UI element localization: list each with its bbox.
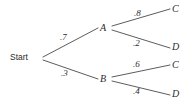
probability-label-a-d: .2 <box>133 39 140 48</box>
probability-label-start-a: .7 <box>60 33 67 42</box>
node-b-d-label: D <box>172 89 179 99</box>
probability-label-b-d: .4 <box>133 87 140 96</box>
node-start-label: Start <box>10 53 28 62</box>
tree-edges-canvas <box>0 0 191 110</box>
edge-a-to-d <box>112 30 170 48</box>
node-b-c-label: C <box>172 60 179 70</box>
edge-b-to-c <box>112 65 170 77</box>
probability-label-start-b: .3 <box>61 69 68 78</box>
probability-label-a-c: .8 <box>134 9 141 18</box>
edge-start-to-b <box>43 60 98 79</box>
edge-start-to-a <box>43 28 98 57</box>
node-b-label: B <box>100 74 106 84</box>
edge-b-to-d <box>112 81 170 95</box>
node-a-d-label: D <box>172 42 179 52</box>
node-a-c-label: C <box>172 4 179 14</box>
probability-label-b-c: .6 <box>133 60 140 69</box>
edge-a-to-c <box>112 9 170 26</box>
node-a-label: A <box>100 23 106 33</box>
probability-tree-diagram: Start A B C D C D .7 .3 .8 .2 .6 .4 <box>0 0 191 110</box>
